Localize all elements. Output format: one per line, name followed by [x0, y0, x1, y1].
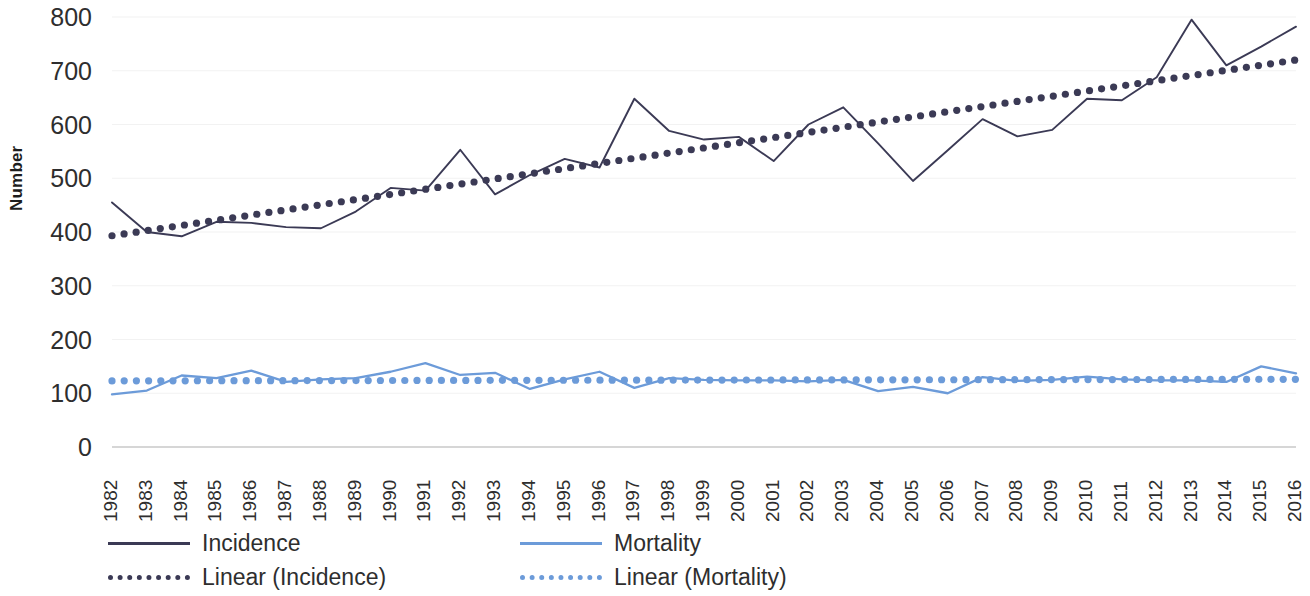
x-axis-tick-1992: 1992	[449, 480, 468, 522]
trend-dot	[301, 203, 308, 210]
trend-dot	[398, 189, 405, 196]
trend-dot	[291, 377, 298, 384]
trend-dot	[755, 376, 762, 383]
trend-dot	[1292, 376, 1299, 383]
trend-dot	[808, 128, 815, 135]
trend-dot	[941, 109, 948, 116]
legend-label: Linear (Incidence)	[202, 564, 386, 591]
trend-dot	[434, 184, 441, 191]
trend-dot	[743, 376, 750, 383]
trend-dot	[1050, 92, 1057, 99]
trend-dot	[989, 101, 996, 108]
trend-dot	[1243, 376, 1250, 383]
trend-dot	[700, 144, 707, 151]
trend-dot	[328, 377, 335, 384]
trend-dot	[446, 182, 453, 189]
x-axis-tick-2001: 2001	[763, 480, 782, 522]
x-axis-tick-1984: 1984	[171, 480, 190, 522]
trend-dot	[657, 377, 664, 384]
trend-dot	[1170, 376, 1177, 383]
trend-dot	[633, 377, 640, 384]
trend-dot	[193, 220, 200, 227]
trend-dot	[584, 377, 591, 384]
trend-dot	[410, 187, 417, 194]
trend-dot	[926, 376, 933, 383]
legend-item-linear-incidence[interactable]: Linear (Incidence)	[108, 564, 386, 591]
trend-dot	[603, 159, 610, 166]
trend-dot	[389, 377, 396, 384]
trend-dot	[609, 377, 616, 384]
trend-dot	[869, 119, 876, 126]
trend-dot	[1072, 376, 1079, 383]
trend-dot	[267, 377, 274, 384]
legend-label: Incidence	[202, 530, 300, 557]
legend-swatch-solid	[520, 542, 602, 545]
trend-dot	[470, 178, 477, 185]
trend-dot	[1182, 73, 1189, 80]
legend-label: Linear (Mortality)	[614, 564, 787, 591]
trend-dot	[1134, 80, 1141, 87]
x-axis-tick-1999: 1999	[693, 480, 712, 522]
x-axis-tick-2011: 2011	[1111, 481, 1130, 522]
x-axis-tick-1993: 1993	[484, 480, 503, 522]
trend-dot	[950, 376, 957, 383]
x-axis-tick-2015: 2015	[1250, 480, 1269, 522]
trend-dot	[450, 377, 457, 384]
trend-dot	[374, 193, 381, 200]
x-axis-tick-2010: 2010	[1076, 480, 1095, 522]
trend-dot	[133, 377, 140, 384]
trend-dot	[1023, 376, 1030, 383]
trend-dot	[784, 132, 791, 139]
x-axis-tick-2016: 2016	[1285, 480, 1304, 522]
trend-dot	[1194, 71, 1201, 78]
trend-dot	[483, 177, 490, 184]
trend-dot	[1097, 376, 1104, 383]
legend-item-incidence[interactable]: Incidence	[108, 530, 300, 557]
trend-dot	[567, 164, 574, 171]
trend-dot	[543, 168, 550, 175]
trend-dot	[1219, 376, 1226, 383]
trend-dot	[1086, 87, 1093, 94]
legend-item-mortality[interactable]: Mortality	[520, 530, 701, 557]
x-axis-tick-2008: 2008	[1006, 480, 1025, 522]
trend-dot	[462, 377, 469, 384]
trend-dot	[218, 377, 225, 384]
trend-dot	[1109, 376, 1116, 383]
trend-dot	[682, 377, 689, 384]
trend-dot	[1074, 89, 1081, 96]
trend-dot	[519, 171, 526, 178]
trend-dot	[230, 377, 237, 384]
trend-dot	[901, 376, 908, 383]
trend-dot	[438, 377, 445, 384]
trend-dot	[596, 377, 603, 384]
legend-swatch-solid	[108, 542, 190, 545]
trend-dot	[1013, 98, 1020, 105]
legend-item-linear-mortality[interactable]: Linear (Mortality)	[520, 564, 787, 591]
trend-dot	[386, 191, 393, 198]
x-axis-tick-2009: 2009	[1041, 480, 1060, 522]
trend-dot	[724, 141, 731, 148]
trend-dot	[108, 232, 115, 239]
trend-dot	[1145, 376, 1152, 383]
trend-dot	[579, 162, 586, 169]
trend-dot	[377, 377, 384, 384]
trend-dot	[1121, 376, 1128, 383]
trend-dot	[560, 377, 567, 384]
trend-dot	[255, 377, 262, 384]
x-axis-tick-2000: 2000	[728, 480, 747, 522]
trend-dot	[645, 377, 652, 384]
trend-dot	[277, 207, 284, 214]
trend-dot	[877, 376, 884, 383]
trend-dot	[804, 376, 811, 383]
trend-dot	[1267, 376, 1274, 383]
trendline-linear-incidence	[108, 57, 1298, 240]
x-axis-tick-1988: 1988	[310, 480, 329, 522]
trend-dot	[1280, 376, 1287, 383]
x-axis-tick-1996: 1996	[589, 480, 608, 522]
trend-dot	[987, 376, 994, 383]
trend-dot	[857, 121, 864, 128]
trend-dot	[688, 146, 695, 153]
trend-dot	[796, 130, 803, 137]
legend-label: Mortality	[614, 530, 701, 557]
trend-dot	[1060, 376, 1067, 383]
